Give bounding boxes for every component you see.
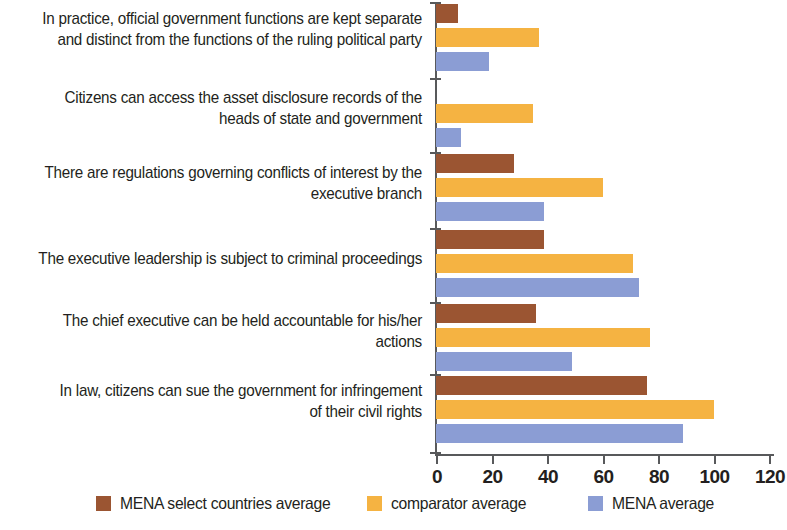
bar [436,424,683,443]
legend-entry-comparator: comparator average [367,494,533,513]
category-label-0: In practice, official government functio… [23,8,422,50]
bar [436,376,647,395]
legend-swatch-comparator [367,496,382,511]
bar [436,254,633,273]
category-label-4: The chief executive can be held accounta… [23,310,422,352]
legend-swatch-mena-select [96,496,111,511]
category-label-column: In practice, official government functio… [0,0,428,455]
bar [436,178,603,197]
x-axis-line [435,454,774,456]
bar [436,154,514,173]
bar [436,4,458,23]
x-axis-tick [714,454,716,464]
bar [436,352,572,371]
bar [436,230,544,249]
x-axis-tick-label: 0 [407,466,467,488]
x-axis-tick-label: 40 [518,466,578,488]
x-axis-tick [492,454,494,464]
legend-entry-mena-select: MENA select countries average [96,494,342,513]
legend-label-mena-select: MENA select countries average [120,494,330,513]
legend-entry-mena-average: MENA average [588,494,719,513]
bar [436,328,650,347]
x-axis-tick [658,454,660,464]
bar [436,52,489,71]
legend-swatch-mena-average [588,496,603,511]
x-axis-tick-label: 100 [685,466,745,488]
legend-label-mena-average: MENA average [612,494,714,513]
legend-label-comparator: comparator average [391,494,526,513]
bar [436,304,536,323]
bar-chart: In practice, official government functio… [0,0,787,530]
x-axis-tick-label: 80 [629,466,689,488]
chart-legend: MENA select countries average comparator… [0,494,787,530]
x-axis-tick [769,454,771,464]
bar [436,278,639,297]
bar [436,400,714,419]
x-axis-tick-label: 120 [740,466,787,488]
x-axis-tick [603,454,605,464]
x-axis-tick-label: 20 [463,466,523,488]
category-label-2: There are regulations governing conflict… [23,162,422,204]
bar [436,128,461,147]
x-axis-tick [436,454,438,464]
bar [436,28,539,47]
bar [436,202,544,221]
y-axis-tick [430,78,441,80]
category-label-3: The executive leadership is subject to c… [23,248,422,269]
bar [436,104,533,123]
x-axis-tick-label: 60 [574,466,634,488]
x-axis-tick [547,454,549,464]
category-label-1: Citizens can access the asset disclosure… [23,87,422,129]
category-label-5: In law, citizens can sue the government … [23,380,422,422]
plot-area: 020406080100120 [430,0,787,455]
